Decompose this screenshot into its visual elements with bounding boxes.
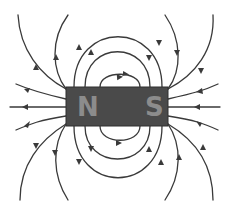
north-pole-label: N — [77, 92, 99, 122]
south-pole-label: S — [145, 92, 164, 122]
field-loop-bottom-inner — [100, 126, 140, 140]
field-svg: N S — [0, 0, 230, 211]
magnetic-field-diagram: N S — [0, 0, 230, 211]
right-open-lines — [165, 15, 220, 200]
left-open-lines — [10, 15, 68, 200]
field-loop-top-middle — [85, 52, 150, 87]
bar-magnet: N S — [66, 87, 168, 126]
